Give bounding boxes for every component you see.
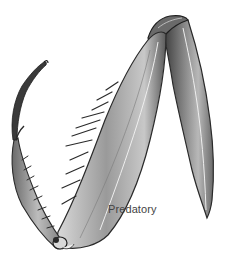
femur-segment [57, 32, 166, 248]
figure-label: Predatory [108, 203, 157, 215]
coxa-segment [163, 19, 213, 218]
tibia-segment [12, 138, 64, 249]
predatory-leg-illustration [0, 0, 229, 264]
tarsus-claw [12, 61, 48, 140]
